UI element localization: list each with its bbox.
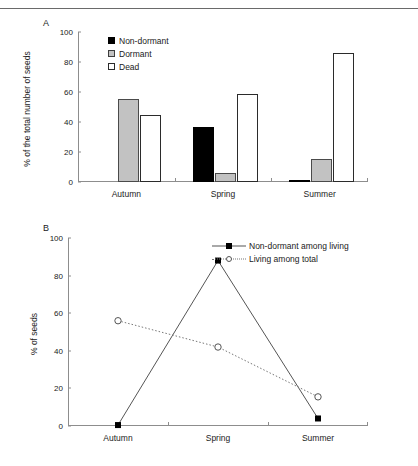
panel-b-y-tick-label: 40 <box>54 346 68 355</box>
legend-item-dormant: Dormant <box>108 47 169 60</box>
legend-item-dead: Dead <box>108 60 169 73</box>
panel-b-y-tick-label: 60 <box>54 309 68 318</box>
panel-b-y-tick-mark <box>68 275 71 276</box>
legend-label-non-dormant-among-living: Non-dormant among living <box>249 241 349 251</box>
panel-a-y-tick-mark <box>78 122 81 123</box>
legend-item-non-dormant-among-living: Non-dormant among living <box>212 239 349 252</box>
panel-a-y-tick-label: 80 <box>64 58 78 67</box>
panel-a-legend: Non-dormant Dormant Dead <box>108 34 169 73</box>
panel-a-y-axis <box>78 32 79 182</box>
panel-a-x-tick-mark <box>367 178 368 182</box>
panel-b-line-non-dormant-among-living <box>118 261 318 426</box>
panel-a-x-tick-label: Autumn <box>112 189 141 199</box>
panel-a-x-tick-mark <box>175 178 176 182</box>
bar-summer-dormant <box>311 159 332 182</box>
figure-root: A % of the total number of seeds 0204060… <box>0 0 418 466</box>
legend-key-dotted-circle-icon <box>212 254 246 263</box>
panel-b-y-tick-mark <box>68 238 71 239</box>
panel-b-y-tick-mark <box>68 350 71 351</box>
panel-a-y-tick-label: 0 <box>69 178 78 187</box>
panel-a-y-tick-mark <box>78 182 81 183</box>
bar-autumn-dormant <box>118 99 139 182</box>
top-divider-rule <box>0 8 418 9</box>
panel-b-series-layer <box>68 238 368 426</box>
panel-b-y-tick-mark <box>68 313 71 314</box>
panel-a-y-tick-label: 20 <box>64 148 78 157</box>
panel-b-y-tick-label: 20 <box>54 384 68 393</box>
panel-b-marker-autumn-living-among-total <box>115 318 121 324</box>
panel-b-x-tick-label: Autumn <box>103 433 132 443</box>
panel-b-marker-spring-living-among-total <box>215 344 221 350</box>
legend-label-non-dormant: Non-dormant <box>119 36 169 46</box>
panel-b-y-tick-mark <box>68 388 71 389</box>
panel-b-marker-summer-non-dormant-among-living <box>315 415 321 421</box>
panel-b-marker-summer-living-among-total <box>315 394 321 400</box>
panel-b-marker-autumn-non-dormant-among-living <box>115 422 121 428</box>
legend-swatch-dead-icon <box>108 63 115 70</box>
panel-b-y-tick-label: 0 <box>59 422 68 431</box>
panel-b: B % of seeds 020406080100AutumnSpringSum… <box>0 219 418 466</box>
panel-b-x-tick-label: Summer <box>302 433 334 443</box>
panel-a-y-tick-label: 60 <box>64 88 78 97</box>
legend-item-living-among-total: Living among total <box>212 252 349 265</box>
panel-a-y-tick-mark <box>78 152 81 153</box>
panel-b-y-tick-label: 80 <box>54 271 68 280</box>
legend-key-solid-square-icon <box>212 241 246 250</box>
bar-summer-non-dormant <box>289 180 310 182</box>
panel-b-letter: B <box>43 223 49 233</box>
bar-spring-dead <box>237 94 258 183</box>
legend-label-living-among-total: Living among total <box>249 254 318 264</box>
bar-spring-non-dormant <box>193 127 214 183</box>
panel-a-letter: A <box>43 18 49 28</box>
panel-b-plot-area: 020406080100AutumnSpringSummer <box>68 238 368 426</box>
legend-item-non-dormant: Non-dormant <box>108 34 169 47</box>
panel-b-y-tick-label: 100 <box>50 234 68 243</box>
panel-a: A % of the total number of seeds 0204060… <box>0 14 418 219</box>
panel-a-y-axis-title: % of the total number of seeds <box>22 44 32 174</box>
panel-a-x-tick-label: Spring <box>211 189 236 199</box>
bar-autumn-dead <box>140 115 161 182</box>
panel-b-x-tick-mark <box>168 422 169 426</box>
panel-b-x-tick-mark <box>367 422 368 426</box>
legend-label-dormant: Dormant <box>119 49 152 59</box>
panel-a-y-tick-mark <box>78 62 81 63</box>
panel-a-x-tick-label: Summer <box>304 189 336 199</box>
bar-spring-dormant <box>215 173 236 182</box>
legend-swatch-dormant-icon <box>108 50 115 57</box>
panel-a-y-tick-mark <box>78 92 81 93</box>
legend-label-dead: Dead <box>119 62 139 72</box>
panel-b-y-axis-title: % of seeds <box>29 294 39 374</box>
panel-b-x-tick-label: Spring <box>206 433 231 443</box>
panel-b-x-tick-mark <box>268 422 269 426</box>
panel-a-y-tick-label: 100 <box>60 28 78 37</box>
legend-swatch-non-dormant-icon <box>108 37 115 44</box>
panel-b-legend: Non-dormant among living Living among to… <box>212 239 349 265</box>
panel-b-y-tick-mark <box>68 426 71 427</box>
panel-a-x-tick-mark <box>271 178 272 182</box>
panel-b-line-living-among-total <box>118 321 318 397</box>
panel-a-y-tick-mark <box>78 32 81 33</box>
bar-summer-dead <box>333 53 354 182</box>
panel-a-y-tick-label: 40 <box>64 118 78 127</box>
